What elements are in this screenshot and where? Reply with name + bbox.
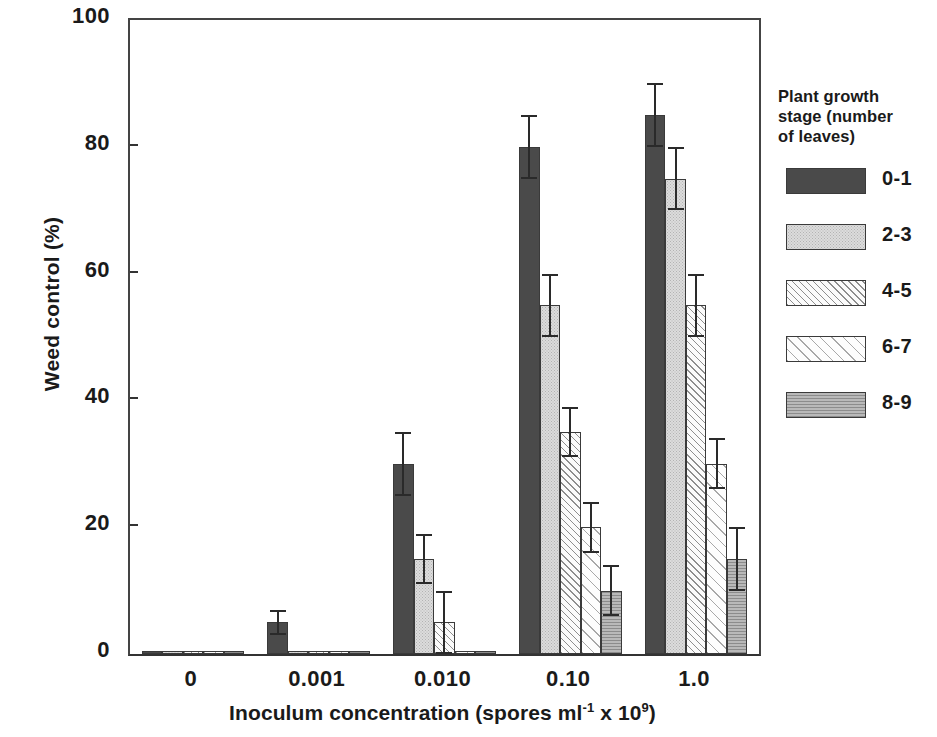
x-axis-title: Inoculum concentration (spores ml-1 x 10… (128, 700, 757, 725)
y-tick-label: 80 (36, 130, 110, 156)
y-tick-label: 20 (36, 510, 110, 536)
error-bar (277, 610, 279, 635)
bar-group (382, 20, 508, 654)
y-tick-label: 60 (36, 257, 110, 283)
legend-label: 2-3 (882, 223, 912, 246)
error-bar (528, 115, 530, 178)
error-bar (569, 407, 571, 458)
error-bar-cap (647, 83, 663, 85)
error-bar-cap (688, 335, 704, 337)
bar-slot (349, 20, 370, 654)
bar-slot (393, 20, 414, 654)
error-bar (716, 438, 718, 489)
bar (475, 651, 496, 654)
legend-swatch (786, 392, 866, 418)
error-bar-cap (668, 208, 684, 210)
bar-slot (540, 20, 561, 654)
error-bar-cap (647, 145, 663, 147)
bar-slot (601, 20, 622, 654)
plot-area (128, 18, 761, 656)
legend: Plant growth stage (number of leaves) 0-… (778, 86, 936, 444)
bar-group (633, 20, 759, 654)
bar-slot (203, 20, 224, 654)
legend-label: 8-9 (882, 391, 912, 414)
error-bar (736, 527, 738, 590)
y-tick-label: 100 (36, 3, 110, 29)
error-bar-cap (270, 633, 286, 635)
error-bar-cap (603, 565, 619, 567)
legend-item: 8-9 (778, 388, 936, 444)
error-bar-cap (416, 582, 432, 584)
bar (455, 651, 476, 654)
x-axis-superscript-exponent-1: -1 (582, 700, 594, 715)
legend-swatch (786, 168, 866, 194)
bars-layer (130, 20, 759, 654)
bar (162, 651, 183, 654)
bar-slot (329, 20, 350, 654)
error-bar-cap (542, 274, 558, 276)
bar-slot (267, 20, 288, 654)
bar (329, 651, 350, 654)
bar (308, 651, 329, 654)
error-bar-cap (562, 407, 578, 409)
error-bar-cap (436, 652, 452, 654)
error-bar (402, 432, 404, 495)
legend-label: 6-7 (882, 335, 912, 358)
error-bar (443, 591, 445, 654)
legend-label: 4-5 (882, 279, 912, 302)
error-bar-cap (562, 455, 578, 457)
bar (349, 651, 370, 654)
error-bar-cap (668, 147, 684, 149)
legend-item: 4-5 (778, 276, 936, 332)
bar (288, 651, 309, 654)
y-tick-label: 0 (36, 637, 110, 663)
legend-swatch (786, 224, 866, 250)
bar-slot (455, 20, 476, 654)
error-bar (610, 565, 612, 616)
bar-slot (475, 20, 496, 654)
bar-group (507, 20, 633, 654)
error-bar-cap (270, 610, 286, 612)
error-bar (423, 534, 425, 585)
legend-entries: 0-12-34-56-78-9 (778, 164, 936, 444)
bar (560, 432, 581, 654)
bar (665, 179, 686, 655)
bar-group (130, 20, 256, 654)
legend-item: 0-1 (778, 164, 936, 220)
bar-slot (288, 20, 309, 654)
legend-item: 6-7 (778, 332, 936, 388)
error-bar (590, 502, 592, 553)
legend-swatch (786, 280, 866, 306)
bar (183, 651, 204, 654)
bar-slot (686, 20, 707, 654)
bar (686, 305, 707, 654)
y-tick-label: 40 (36, 383, 110, 409)
bar (540, 305, 561, 654)
error-bar-cap (521, 177, 537, 179)
error-bar-cap (436, 591, 452, 593)
error-bar (654, 83, 656, 146)
bar-slot (560, 20, 581, 654)
bar-slot (706, 20, 727, 654)
bar-slot (434, 20, 455, 654)
error-bar-cap (688, 274, 704, 276)
error-bar-cap (709, 438, 725, 440)
error-bar-cap (583, 551, 599, 553)
error-bar-cap (729, 589, 745, 591)
legend-item: 2-3 (778, 220, 936, 276)
error-bar-cap (395, 494, 411, 496)
x-tick-label: 1.0 (619, 666, 769, 692)
bar (519, 147, 540, 654)
error-bar (695, 274, 697, 337)
bar-slot (162, 20, 183, 654)
error-bar-cap (729, 527, 745, 529)
legend-swatch (786, 336, 866, 362)
bar (645, 115, 666, 654)
bar (224, 651, 245, 654)
error-bar-cap (709, 487, 725, 489)
bar-slot (142, 20, 163, 654)
error-bar-cap (583, 502, 599, 504)
error-bar (549, 274, 551, 337)
x-axis-superscript-exponent-2: 9 (641, 700, 648, 715)
bar (706, 464, 727, 654)
